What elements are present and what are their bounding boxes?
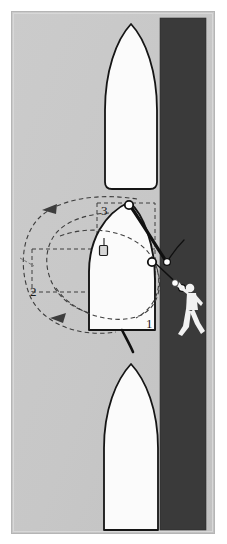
diagram-figure: 1 2 3: [0, 0, 227, 544]
monkeys-fist-weight: [172, 280, 179, 287]
step-label-2: 2: [30, 284, 37, 299]
step-label-1: 1: [146, 316, 153, 331]
deck-winch-marker: [100, 246, 108, 256]
quay-bollard-upper: [164, 259, 171, 266]
bow-cleat-circle: [125, 201, 133, 209]
midship-cleat-circle: [148, 258, 156, 266]
diagram-canvas: 1 2 3: [0, 0, 227, 544]
step-label-3: 3: [101, 203, 108, 218]
